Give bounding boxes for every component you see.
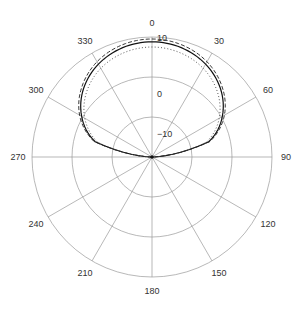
angle-label-120: 120 bbox=[260, 219, 275, 229]
angle-label-240: 240 bbox=[28, 219, 43, 229]
grid-spoke bbox=[92, 157, 152, 261]
grid-spoke bbox=[152, 97, 256, 157]
grid-spoke bbox=[48, 97, 152, 157]
angle-label-30: 30 bbox=[214, 36, 224, 46]
angle-label-210: 210 bbox=[77, 268, 92, 278]
grid-spoke bbox=[152, 157, 256, 217]
angle-label-270: 270 bbox=[10, 152, 25, 162]
angle-label-150: 150 bbox=[211, 268, 226, 278]
angle-label-60: 60 bbox=[263, 85, 273, 95]
angle-label-90: 90 bbox=[281, 152, 291, 162]
radial-label: −10 bbox=[157, 129, 172, 139]
radial-tick-labels: 100−10 bbox=[157, 33, 172, 139]
grid-spoke bbox=[152, 157, 212, 261]
grid-spoke bbox=[92, 53, 152, 157]
center-point bbox=[150, 155, 154, 159]
angle-label-330: 330 bbox=[77, 36, 92, 46]
angle-label-0: 0 bbox=[149, 18, 154, 28]
radial-label: 0 bbox=[157, 89, 162, 99]
grid-spoke bbox=[48, 157, 152, 217]
polar-plot-canvas: 0306090120150180210240270300330 100−10 bbox=[0, 0, 301, 311]
grid-spoke bbox=[152, 53, 212, 157]
polar-chart: 0306090120150180210240270300330 100−10 bbox=[0, 0, 301, 311]
angle-label-300: 300 bbox=[28, 85, 43, 95]
angle-label-180: 180 bbox=[144, 286, 159, 296]
